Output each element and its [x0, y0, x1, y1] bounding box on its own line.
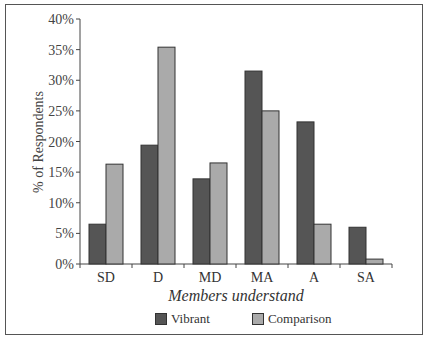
y-tick-label: 35% [48, 43, 74, 58]
x-tick-label: SA [357, 270, 376, 285]
x-axis: SDDMDMAASA [80, 264, 392, 285]
x-axis-label: Members understand [168, 287, 304, 305]
y-tick-label: 5% [55, 226, 74, 241]
bar-comparison-sa [366, 259, 383, 264]
bar-vibrant-md [193, 179, 210, 264]
legend-swatch-comparison [252, 313, 264, 325]
y-axis: 0%5%10%15%20%25%30%35%40% [48, 12, 80, 272]
y-tick-label: 20% [48, 135, 74, 150]
x-tick-label: MD [199, 270, 222, 285]
bar-comparison-a [314, 224, 331, 264]
legend: Vibrant Comparison [155, 311, 374, 327]
y-tick-label: 30% [48, 73, 74, 88]
bar-comparison-md [210, 163, 227, 264]
legend-item-comparison: Comparison [252, 311, 332, 327]
y-tick-label: 10% [48, 196, 74, 211]
legend-label-vibrant: Vibrant [171, 311, 210, 327]
bar-vibrant-sa [349, 227, 366, 264]
legend-item-vibrant: Vibrant [155, 311, 210, 327]
y-tick-label: 40% [48, 12, 74, 27]
bar-comparison-sd [106, 164, 123, 264]
bars [89, 47, 383, 264]
y-tick-label: 0% [55, 257, 74, 272]
bar-vibrant-sd [89, 224, 106, 264]
legend-label-comparison: Comparison [268, 311, 332, 327]
bar-vibrant-a [297, 122, 314, 264]
bar-vibrant-d [141, 145, 158, 264]
legend-swatch-vibrant [155, 313, 167, 325]
x-tick-label: D [153, 270, 163, 285]
y-axis-label: % of Respondents [31, 91, 47, 193]
y-tick-label: 25% [48, 104, 74, 119]
bar-comparison-d [158, 47, 175, 264]
y-tick-label: 15% [48, 165, 74, 180]
x-tick-label: MA [251, 270, 274, 285]
bar-vibrant-ma [245, 71, 262, 264]
x-tick-label: A [309, 270, 320, 285]
bar-comparison-ma [262, 111, 279, 264]
x-tick-label: SD [97, 270, 115, 285]
